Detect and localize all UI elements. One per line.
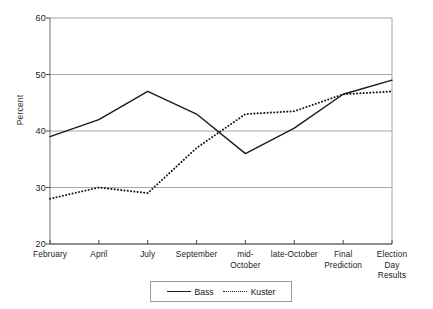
x-axis-tick-label: September xyxy=(176,249,218,260)
dotted-line-swatch-icon xyxy=(223,291,247,292)
x-axis-tick-label: Election Day Results xyxy=(372,249,413,281)
x-axis-tick-label: mid- October xyxy=(230,249,260,270)
line-chart: Percent 2030405060 FebruaryAprilJulySept… xyxy=(0,0,433,309)
x-axis-tick-label: July xyxy=(140,249,155,260)
legend-item-kuster: Kuster xyxy=(223,287,276,297)
x-axis-tick-label: Final Prediction xyxy=(324,249,362,270)
x-axis-tick-label: April xyxy=(90,249,107,260)
series-line-bass xyxy=(50,80,392,153)
legend-label-bass: Bass xyxy=(195,287,214,297)
legend-label-kuster: Kuster xyxy=(251,287,276,297)
chart-legend: Bass Kuster xyxy=(150,281,292,302)
solid-line-swatch-icon xyxy=(167,291,191,292)
x-axis-tick-label: February xyxy=(33,249,67,260)
x-axis-tick-label: late-October xyxy=(271,249,318,260)
series-line-kuster xyxy=(50,91,392,198)
legend-item-bass: Bass xyxy=(167,287,214,297)
plot-area xyxy=(0,0,433,309)
